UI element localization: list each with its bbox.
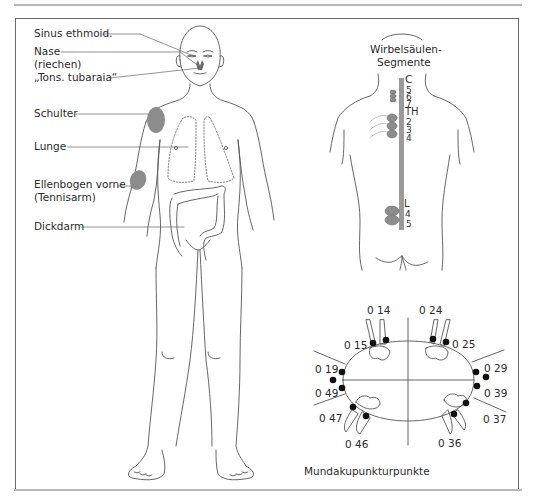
segment-l5: 5 xyxy=(406,220,412,229)
point-25: 0 25 xyxy=(452,338,475,350)
lumbar-bumps xyxy=(385,206,399,225)
point-19: 0 19 xyxy=(315,363,338,375)
label-schulter: Schulter xyxy=(34,107,78,120)
segment-th: TH xyxy=(405,107,419,116)
mouth-diagram xyxy=(314,318,506,445)
segment-th4: 4 xyxy=(406,134,412,143)
colon-outline xyxy=(170,186,226,260)
mouth-caption: Mundakupunkturpunkte xyxy=(304,465,430,478)
cervical-bumps xyxy=(390,90,396,102)
label-tons-tubaraia: „Tons. tubaraia“ xyxy=(34,71,117,84)
point-39: 0 39 xyxy=(484,387,507,399)
thoracic-bumps xyxy=(387,114,397,138)
point-49: 0 49 xyxy=(315,387,338,399)
spine-title-line1: Wirbelsäulen- xyxy=(370,43,442,56)
thoracic-rays xyxy=(370,115,388,138)
point-46: 0 46 xyxy=(345,438,368,450)
point-29: 0 29 xyxy=(484,362,507,374)
point-47: 0 47 xyxy=(319,412,342,424)
spine-title-line2: Segmente xyxy=(377,56,431,69)
label-tennisarm: (Tennisarm) xyxy=(34,191,96,204)
label-nase: Nase xyxy=(34,45,60,58)
segment-l: L xyxy=(404,199,410,208)
label-ellenbogen-vorne: Ellenbogen vorne xyxy=(34,178,126,191)
lungs-outline xyxy=(168,117,234,183)
point-36: 0 36 xyxy=(438,437,461,449)
label-lunge: Lunge xyxy=(34,140,66,153)
label-riechen: (riechen) xyxy=(34,58,81,71)
front-body-figure xyxy=(124,26,274,480)
label-sinus-ethmoid: Sinus ethmoid. xyxy=(34,27,113,40)
elbow-highlight xyxy=(127,168,149,192)
point-37: 0 37 xyxy=(483,413,506,425)
point-24: 0 24 xyxy=(419,304,442,316)
segment-l4: 4 xyxy=(405,210,411,219)
point-14: 0 14 xyxy=(367,304,390,316)
segment-c: C xyxy=(405,75,413,84)
shoulder-highlight xyxy=(147,107,165,133)
point-15: 0 15 xyxy=(344,339,367,351)
label-dickdarm: Dickdarm xyxy=(34,220,84,233)
nipple-right xyxy=(224,146,227,149)
